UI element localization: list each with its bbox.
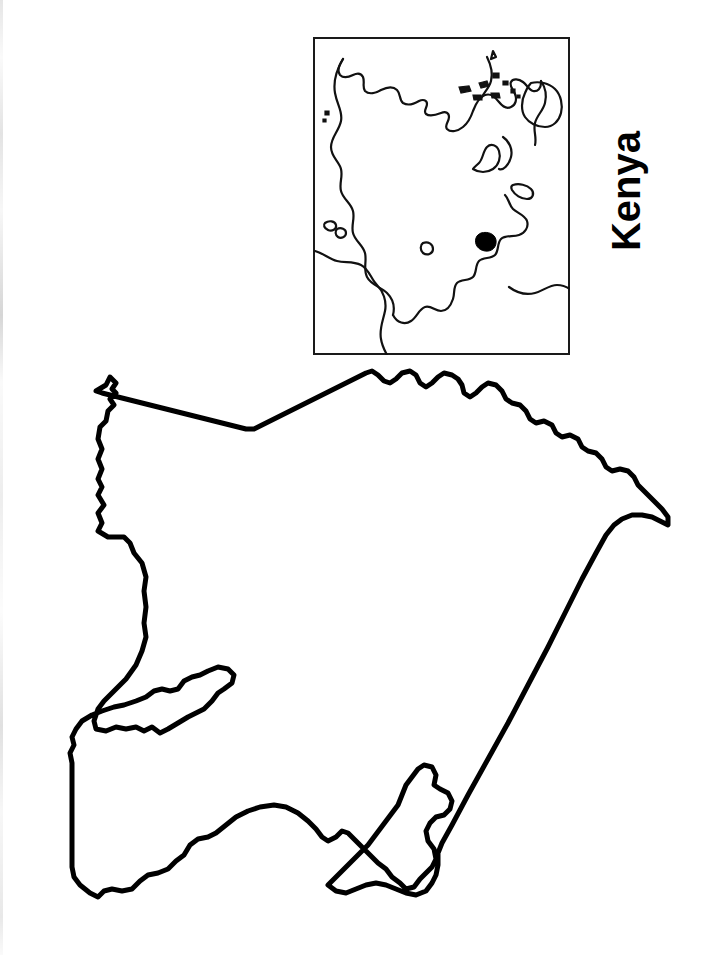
kenya-locator-dot [475, 232, 496, 251]
kamchatka-tip [491, 51, 496, 59]
lower-left-continent-edge [315, 251, 387, 355]
atlantic-speck-1 [325, 111, 329, 115]
philippines-speck-2 [503, 81, 508, 85]
kenya-border-path [70, 371, 668, 897]
kenya-outline-map [40, 355, 690, 915]
world-locator-inset: Kenya [313, 37, 570, 355]
page-title: Kenya [604, 106, 648, 276]
atlantic-island-pair-a [324, 221, 336, 230]
indonesia-island-3 [473, 95, 482, 100]
lower-right-coast-edge [509, 285, 570, 294]
atlantic-speck-2 [323, 119, 326, 122]
africa-southern-outline [393, 195, 528, 323]
western-coast-line [331, 59, 394, 315]
scan-edge-artifact [0, 0, 3, 955]
australia-landmass [522, 82, 562, 127]
india-subcontinent [499, 137, 512, 169]
indonesia-island-2 [479, 81, 489, 88]
arabian-peninsula [473, 145, 500, 172]
eurasia-africa-landmass [339, 59, 541, 131]
small-island-lower-center [421, 242, 433, 254]
pacific-speck-2 [517, 95, 520, 98]
japan-archipelago [481, 57, 492, 99]
madagascar-island [511, 184, 533, 199]
pacific-speck-1 [511, 89, 515, 93]
atlantic-island-pair-b [336, 228, 346, 238]
indonesia-island-4 [491, 93, 500, 98]
indonesia-island-1 [459, 86, 471, 93]
world-map-graphic [313, 37, 570, 355]
philippines-speck-1 [493, 73, 499, 78]
worksheet-page: Kenya [0, 0, 716, 955]
